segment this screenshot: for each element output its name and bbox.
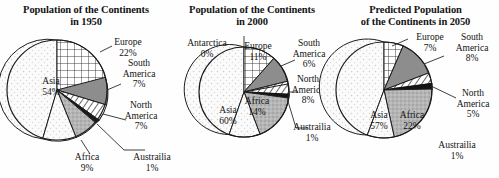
chart-title-2050-line2: of the Continents in 2050	[332, 16, 499, 28]
label-europe-1950: Europe 22%	[104, 37, 152, 58]
label-south-america-2050: South America 8%	[446, 32, 498, 64]
chart-panel-2050: Predicted Population of the Continents i…	[332, 0, 499, 178]
chart-title-2000-line1: Population of the Continents	[172, 4, 332, 16]
chart-title-2000-line2: in 2000	[172, 16, 332, 28]
chart-title-1950: Population of the Continents in 1950	[0, 4, 172, 27]
label-africa-2000: Africa 14%	[234, 96, 280, 117]
figure-three-pie-charts: Population of the Continents in 1950	[0, 0, 499, 178]
chart-title-1950-line1: Population of the Continents	[0, 4, 172, 16]
label-north-america-2050: North America 5%	[447, 88, 499, 120]
label-australia-2050: Austrailia 1%	[430, 140, 484, 161]
label-antarctica-2000: Antarctica 0%	[176, 38, 238, 59]
label-south-america-1950: South America 7%	[112, 58, 166, 90]
label-europe-2000: Europe 11%	[234, 41, 282, 62]
label-north-america-1950: North America 7%	[114, 100, 168, 132]
chart-title-1950-line2: in 1950	[0, 16, 172, 28]
label-australia-2000: Austrailia 1%	[286, 122, 338, 143]
chart-title-2050: Predicted Population of the Continents i…	[332, 4, 499, 27]
chart-panel-1950: Population of the Continents in 1950	[0, 0, 172, 178]
label-africa-1950: Africa 9%	[64, 152, 110, 173]
label-asia-1950: Asia 54%	[28, 76, 74, 97]
leader-line-south-america	[424, 56, 444, 64]
chart-title-2000: Population of the Continents in 2000	[172, 4, 332, 27]
label-africa-2050: Africa 22%	[388, 110, 436, 131]
chart-title-2050-line1: Predicted Population	[332, 4, 499, 16]
chart-panel-2000: Population of the Continents in 2000	[172, 0, 332, 178]
